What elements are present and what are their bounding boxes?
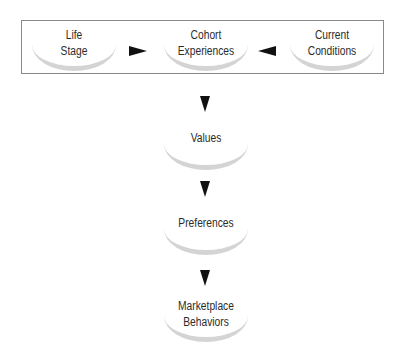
node-label: Current Conditions [289, 27, 374, 59]
node-label: Life Stage [31, 27, 116, 59]
node-cohort-experiences: Cohort Experiences [164, 21, 248, 71]
node-life-stage: Life Stage [32, 21, 116, 71]
arrow-down-icon [200, 181, 210, 197]
node-current-conditions: Current Conditions [290, 21, 374, 71]
arrow-down-icon [200, 96, 210, 112]
node-label: Marketplace Behaviors [163, 298, 248, 330]
node-marketplace-behaviors: Marketplace Behaviors [164, 292, 248, 342]
arrow-right-icon [129, 46, 147, 56]
node-label: Preferences [163, 215, 248, 231]
node-label: Values [163, 130, 248, 146]
arc-shape [164, 144, 248, 170]
arc-shape [164, 229, 248, 255]
node-label: Cohort Experiences [163, 27, 248, 59]
arrow-left-icon [258, 46, 276, 56]
arrow-down-icon [200, 270, 210, 286]
node-preferences: Preferences [164, 205, 248, 255]
node-values: Values [164, 120, 248, 170]
